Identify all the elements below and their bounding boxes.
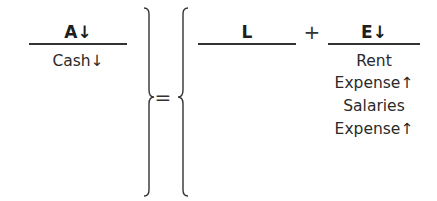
liabilities-rule	[198, 43, 296, 45]
liabilities-header: L	[198, 22, 296, 42]
equity-item-rent-expense: Expense↑	[318, 72, 430, 94]
equity-item-rent: Rent	[318, 50, 430, 72]
equity-rule	[328, 43, 420, 45]
plus-sign: +	[302, 22, 322, 42]
equity-item-salaries: Salaries	[318, 95, 430, 117]
assets-header: A↓	[29, 22, 127, 42]
opening-brace-icon	[178, 8, 188, 196]
equals-sign: =	[153, 87, 173, 107]
assets-rule	[29, 43, 127, 45]
equity-item-salaries-expense: Expense↑	[318, 118, 430, 140]
equity-header: E↓	[328, 22, 420, 42]
assets-item-cash: Cash↓	[29, 50, 127, 72]
